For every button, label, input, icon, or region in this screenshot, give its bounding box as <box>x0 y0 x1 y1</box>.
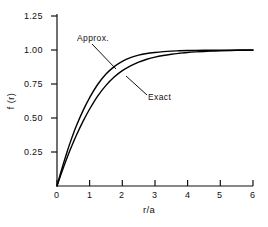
x-axis-ticks <box>57 180 253 186</box>
y-tick-label-0-50: 0.50 <box>24 113 43 123</box>
x-axis-title: r/a <box>143 204 155 215</box>
y-tick-label-0-25: 0.25 <box>24 147 43 157</box>
y-tick-label-0-75: 0.75 <box>24 79 43 89</box>
series-line-exact <box>57 50 253 186</box>
x-tick-label-2: 2 <box>119 190 124 200</box>
x-tick-label-4: 4 <box>185 190 190 200</box>
leader-line-exact <box>126 76 147 95</box>
y-tick-label-1-00: 1.00 <box>24 45 43 55</box>
x-tick-label-5: 5 <box>217 190 222 200</box>
annotation-exact: Exact <box>148 92 171 102</box>
x-tick-label-3: 3 <box>152 190 157 200</box>
x-tick-label-0: 0 <box>54 190 59 200</box>
y-axis-title: f (r) <box>6 93 16 110</box>
leader-line-approx <box>92 44 116 69</box>
figure-chart: f (r) 1.25 1.00 0.75 0.50 0.25 0 1 2 3 4… <box>0 0 268 227</box>
y-axis-ticks <box>51 16 57 152</box>
y-tick-label-1-25: 1.25 <box>24 11 43 21</box>
annotation-approx: Approx. <box>77 33 109 43</box>
x-tick-label-1: 1 <box>87 190 92 200</box>
x-tick-label-6: 6 <box>250 190 255 200</box>
series-line-approx <box>57 50 253 186</box>
